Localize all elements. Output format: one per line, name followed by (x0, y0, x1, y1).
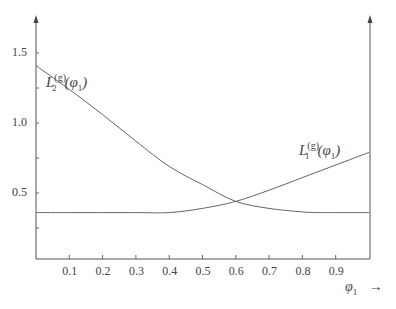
x-tick-label: 0.1 (62, 264, 77, 279)
l1-curve-label: L(g)1(φ1) (299, 140, 340, 161)
x-tick-label: 0.3 (129, 264, 144, 279)
x-tick-label: 0.4 (162, 264, 177, 279)
l1-curve (36, 152, 369, 213)
x-tick-label: 0.6 (229, 264, 244, 279)
y-tick-label: 1.5 (12, 45, 27, 60)
y-tick-label: 1.0 (12, 115, 27, 130)
y-tick-label: 0.5 (12, 185, 27, 200)
x-tick-label: 0.2 (96, 264, 111, 279)
y-axis-arrow-right-icon (368, 15, 373, 23)
x-tick-label: 0.9 (329, 264, 344, 279)
x-axis-label: φ1 → (345, 279, 383, 297)
y-axis-arrow-left-icon (34, 15, 39, 23)
x-tick-label: 0.5 (196, 264, 211, 279)
l2-curve-label: L(g)2(φ1) (46, 72, 87, 93)
x-tick-label: 0.7 (262, 264, 277, 279)
x-tick-label: 0.8 (295, 264, 310, 279)
